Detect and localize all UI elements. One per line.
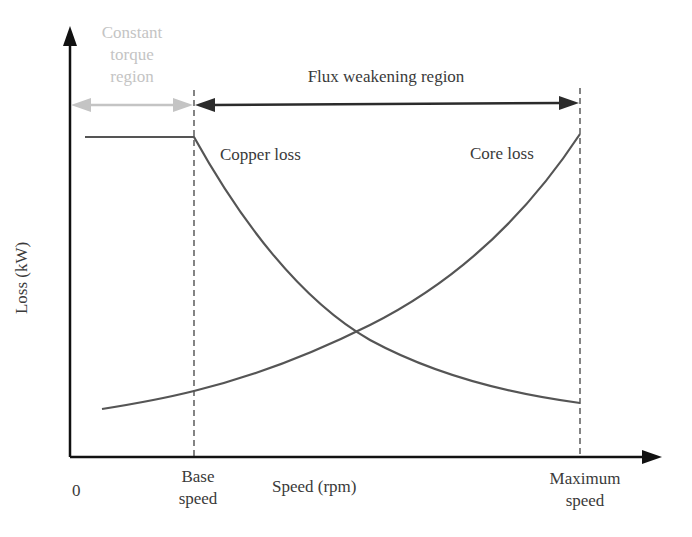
max-speed-line-2: speed	[550, 490, 621, 512]
origin-label: 0	[72, 480, 81, 502]
copper-loss-curve	[85, 137, 580, 403]
flux-weakening-arrow	[195, 96, 579, 112]
base-speed-label: Base speed	[179, 466, 218, 510]
base-speed-line-2: speed	[179, 488, 218, 510]
constant-torque-line-3: region	[102, 66, 162, 88]
copper-loss-label: Copper loss	[220, 144, 301, 166]
y-axis	[63, 26, 77, 457]
y-axis-label: Loss (kW)	[12, 242, 32, 314]
core-loss-label: Core loss	[470, 143, 534, 165]
x-axis-arrow-icon	[642, 450, 662, 464]
constant-torque-line-2: torque	[102, 44, 162, 66]
constant-torque-line-1: Constant	[102, 22, 162, 44]
max-speed-label: Maximum speed	[550, 468, 621, 512]
y-axis-arrow-icon	[63, 26, 77, 46]
core-loss-curve	[102, 134, 580, 409]
base-speed-line-1: Base	[179, 466, 218, 488]
constant-torque-arrow	[71, 98, 193, 112]
x-axis	[70, 450, 662, 464]
max-speed-line-1: Maximum	[550, 468, 621, 490]
constant-torque-label: Constant torque region	[102, 22, 162, 88]
x-axis-label: Speed (rpm)	[272, 476, 357, 498]
flux-weakening-label: Flux weakening region	[308, 66, 465, 88]
